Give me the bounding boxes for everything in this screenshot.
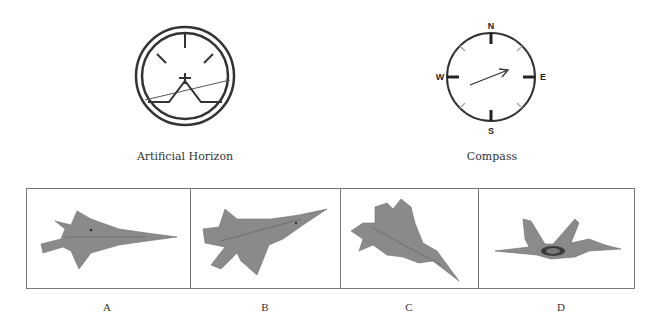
jet-aircraft-icon <box>191 189 340 288</box>
option-b-panel[interactable] <box>190 189 340 288</box>
compass-icon: N S W E <box>436 20 548 136</box>
option-a-panel[interactable] <box>27 189 190 288</box>
option-d-label: D <box>551 301 571 313</box>
artificial-horizon <box>133 24 237 128</box>
option-a-label: A <box>97 301 117 313</box>
compass-west-label: W <box>436 72 445 82</box>
jet-aircraft-icon <box>27 189 190 288</box>
compass-label: Compass <box>450 150 534 163</box>
artificial-horizon-icon <box>133 24 237 128</box>
artificial-horizon-label: Artificial Horizon <box>118 150 252 163</box>
compass-east-label: E <box>540 72 546 82</box>
jet-aircraft-icon <box>479 189 634 288</box>
option-c-panel[interactable] <box>340 189 478 288</box>
option-b-label: B <box>255 301 275 313</box>
compass-north-label: N <box>488 21 495 31</box>
compass-south-label: S <box>488 126 494 136</box>
compass: N S W E <box>436 20 548 136</box>
option-c-label: C <box>399 301 419 313</box>
option-d-panel[interactable] <box>478 189 634 288</box>
jet-aircraft-icon <box>341 189 478 288</box>
aircraft-options-strip <box>26 188 635 289</box>
